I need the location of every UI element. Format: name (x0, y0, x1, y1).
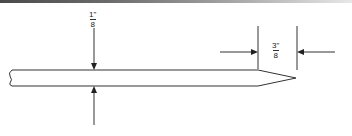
arrow-right-icon (251, 49, 258, 55)
taper-denominator: 8 (273, 52, 277, 59)
rod-drawing (0, 0, 352, 136)
taper-label: 3" 8 (272, 42, 279, 59)
diameter-numerator: 1" (89, 11, 96, 18)
rod-top-edge (12, 70, 296, 78)
diameter-denominator: 8 (90, 21, 94, 28)
arrow-down-icon (91, 63, 97, 70)
arrow-left-icon (297, 49, 304, 55)
diameter-label: 1" 8 (89, 11, 96, 28)
rod-bottom-edge (12, 78, 296, 86)
taper-numerator: 3" (272, 42, 279, 49)
arrow-up-icon (91, 86, 97, 93)
rod-break-line (9, 70, 12, 86)
